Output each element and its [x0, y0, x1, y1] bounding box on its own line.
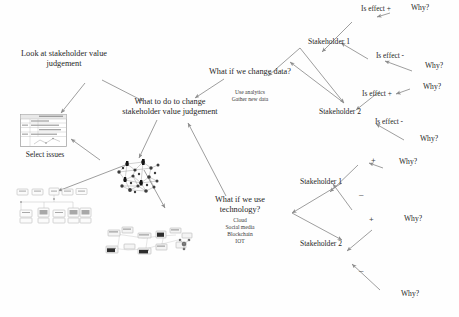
sign-lower-negative-1: – — [359, 190, 363, 199]
node-upper-is-effect-negative-1[interactable]: Is effect - — [364, 52, 416, 61]
caption-select-issues: Select issues — [14, 150, 76, 159]
node-use-technology-item-3: IOT — [196, 238, 284, 245]
node-upper-why-1[interactable]: Why? — [404, 4, 436, 13]
sign-lower-positive-1: + — [371, 156, 376, 165]
node-lower-why-3[interactable]: Why? — [394, 290, 426, 299]
concept-map-canvas: Look at stakeholder value judgement — [0, 0, 459, 317]
node-use-technology-item-0: Cloud — [196, 217, 284, 224]
sign-lower-positive-2: + — [369, 215, 374, 224]
node-lower-stakeholder-1[interactable]: Stakeholder 1 — [288, 178, 354, 187]
node-upper-is-effect-positive-1[interactable]: Is effect + — [350, 5, 402, 14]
node-lower-stakeholder-2[interactable]: Stakeholder 2 — [288, 240, 354, 249]
node-lower-why-1[interactable]: Why? — [392, 158, 424, 167]
node-upper-is-effect-negative-2[interactable]: Is effect - — [363, 118, 415, 127]
node-change-data-item-1: Gather new data — [204, 96, 296, 103]
node-upper-why-4[interactable]: Why? — [413, 135, 445, 144]
scatter-map-thumbnail[interactable] — [98, 222, 198, 262]
node-change-data-item-0: Use analytics — [204, 89, 296, 96]
sign-lower-negative-2: – — [359, 266, 363, 275]
node-use-technology-item-1: Social media — [196, 224, 284, 231]
node-lower-why-2[interactable]: Why? — [397, 215, 429, 224]
node-what-if-we-change-data[interactable]: What if we change data? — [204, 67, 296, 77]
node-what-if-we-use-technology[interactable]: What if we use technology? — [196, 195, 284, 215]
issues-table-thumbnail[interactable] — [20, 114, 67, 147]
node-upper-stakeholder-1[interactable]: Stakeholder 1 — [296, 38, 362, 47]
node-use-technology-item-2: Blockchain — [196, 231, 284, 238]
node-upper-why-2[interactable]: Why? — [418, 62, 450, 71]
node-look-at-stakeholder-value-judgement[interactable]: Look at stakeholder value judgement — [17, 49, 111, 69]
network-cluster-thumbnail[interactable] — [115, 156, 163, 196]
node-upper-stakeholder-2[interactable]: Stakeholder 2 — [307, 108, 373, 117]
node-upper-why-3[interactable]: Why? — [416, 83, 448, 92]
boxes-diagram-thumbnail[interactable] — [16, 186, 92, 228]
node-upper-is-effect-positive-2[interactable]: Is effect + — [351, 90, 403, 99]
